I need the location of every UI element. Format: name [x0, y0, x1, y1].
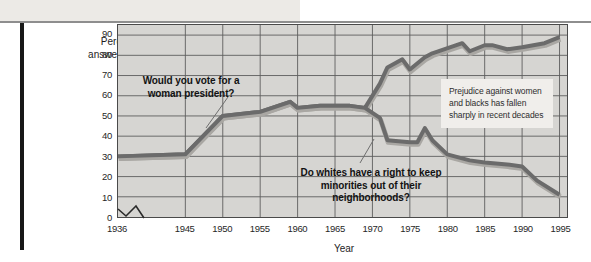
x-axis-title: Year	[319, 243, 369, 254]
annotation-leader-lines	[0, 0, 591, 262]
callout-box: Prejudice against women and blacks has f…	[441, 79, 553, 128]
chart-figure: Percentage answering yes 010203040506070…	[0, 0, 591, 262]
